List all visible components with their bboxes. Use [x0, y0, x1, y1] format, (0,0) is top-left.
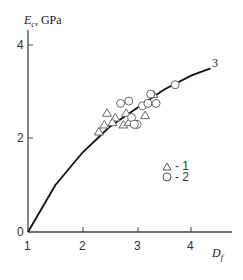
legend-label-2: - 2: [175, 170, 189, 184]
legend: - 1 - 2: [163, 159, 189, 184]
x-axis-label: Df: [211, 246, 225, 262]
x-tick-1: 1: [24, 239, 31, 253]
y-axis-label: Ec, GPa: [23, 13, 62, 29]
circle-marker: [130, 120, 138, 128]
y-tick-2: 2: [17, 131, 24, 145]
circle-marker: [144, 99, 152, 107]
triangle-marker: [94, 127, 103, 135]
triangle-marker: [103, 109, 112, 117]
x-tick-2: 2: [79, 239, 86, 253]
x-tick-3: 3: [134, 239, 141, 253]
triangle-marker: [100, 120, 109, 128]
curve-label-3: 3: [212, 56, 218, 70]
triangle-marker: [141, 111, 150, 119]
circle-marker: [147, 90, 155, 98]
chart: 4 2 0 1 2 3 4 Ec, GPa Df 3 - 1 - 2: [0, 0, 243, 280]
circle-marker: [125, 97, 133, 105]
circle-marker: [171, 81, 179, 89]
x-tick-4: 4: [187, 239, 194, 253]
circle-marker: [117, 99, 125, 107]
y-tick-0: 0: [17, 225, 24, 239]
triangle-icon: [163, 163, 171, 170]
fit-curve-3: [28, 68, 211, 232]
circle-marker: [152, 99, 160, 107]
y-tick-4: 4: [17, 38, 24, 52]
circle-icon: [163, 173, 171, 181]
